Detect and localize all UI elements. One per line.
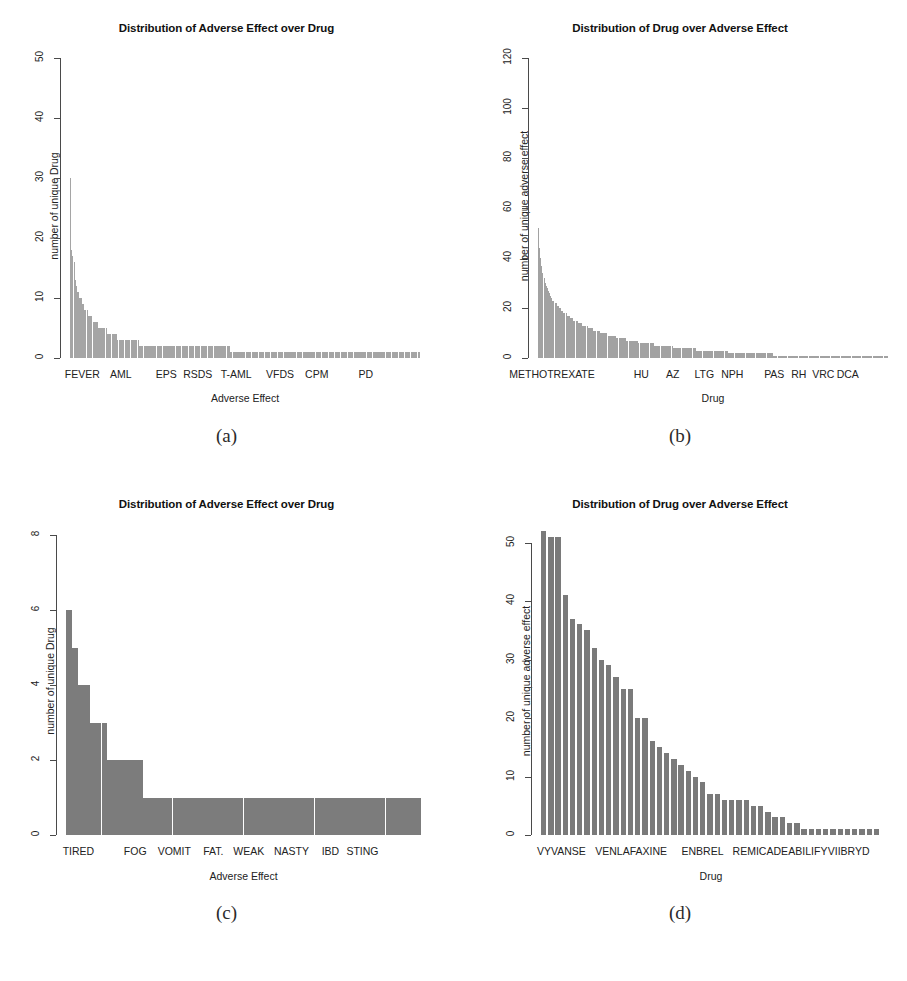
bar: [722, 800, 727, 835]
y-axis-line: [56, 535, 57, 835]
y-axis-tick: [522, 158, 528, 159]
y-axis-tick-label: 8: [30, 517, 41, 551]
y-axis-tick: [50, 610, 56, 611]
bar: [541, 531, 546, 835]
bar: [657, 747, 662, 835]
y-axis-tick: [525, 543, 531, 544]
bar: [787, 823, 792, 835]
y-axis-tick-label: 50: [505, 524, 516, 558]
y-axis-tick: [525, 601, 531, 602]
x-axis-tick-label: METHOTREXATE: [507, 368, 597, 380]
bar: [613, 677, 618, 835]
bar: [548, 537, 553, 835]
bar-series: [538, 58, 888, 358]
bar: [415, 798, 421, 836]
x-axis-tick-label: VIIBRYD: [804, 845, 894, 857]
chart-title-a: Distribution of Adverse Effect over Drug: [0, 22, 453, 34]
bar: [606, 665, 611, 835]
y-axis-tick-label: 6: [30, 592, 41, 626]
x-axis-label-b: Drug: [538, 392, 888, 404]
figure-grid: Distribution of Adverse Effect over Drug…: [0, 0, 907, 981]
bar: [707, 794, 712, 835]
bar-series: [541, 525, 881, 835]
y-axis-tick: [50, 760, 56, 761]
y-axis-tick: [525, 835, 531, 836]
bar: [744, 800, 749, 835]
bar: [686, 771, 691, 835]
bar: [794, 823, 799, 835]
bar: [693, 777, 698, 835]
bar: [715, 794, 720, 835]
y-axis-tick-label: 30: [505, 641, 516, 675]
plot-area-a: 01020304050FEVERAMLEPSRSDST-AMLVFDSCPMPD: [70, 58, 420, 358]
bar: [700, 782, 705, 835]
y-axis-tick: [522, 358, 528, 359]
chart-title-c: Distribution of Adverse Effect over Drug: [0, 498, 453, 510]
bar: [772, 817, 777, 835]
bar: [838, 829, 843, 835]
bar: [671, 759, 676, 835]
bar: [751, 806, 756, 835]
y-axis-line: [60, 58, 61, 358]
y-axis-tick: [522, 208, 528, 209]
y-axis-tick: [54, 358, 60, 359]
y-axis-tick-label: 10: [505, 758, 516, 792]
subfigure-caption-d: (d): [453, 902, 907, 924]
y-axis-tick: [50, 685, 56, 686]
bar: [678, 765, 683, 835]
bar: [729, 800, 734, 835]
y-axis-label-a: number of unique Drug: [48, 126, 60, 286]
bar: [584, 630, 589, 835]
y-axis-line: [528, 58, 529, 358]
y-axis-tick: [522, 308, 528, 309]
y-axis-tick-label: 40: [502, 240, 513, 274]
y-axis-tick-label: 20: [505, 700, 516, 734]
y-axis-tick-label: 40: [505, 583, 516, 617]
bar: [845, 829, 850, 835]
plot-area-b: 020406080100120METHOTREXATEHUAZLTGNPHPAS…: [538, 58, 888, 358]
bar: [736, 800, 741, 835]
y-axis-tick: [522, 258, 528, 259]
y-axis-tick-label: 50: [34, 40, 45, 74]
y-axis-tick-label: 120: [502, 40, 513, 74]
y-axis-tick: [522, 108, 528, 109]
chart-panel-b: Distribution of Drug over Adverse Effect…: [453, 0, 907, 470]
chart-title-b: Distribution of Drug over Adverse Effect: [453, 22, 907, 34]
bar-series: [66, 535, 421, 835]
y-axis-tick-label: 40: [34, 100, 45, 134]
bar: [642, 718, 647, 835]
bar: [650, 741, 655, 835]
bar: [809, 829, 814, 835]
bar: [867, 829, 872, 835]
bar: [563, 595, 568, 835]
bar: [874, 829, 879, 835]
y-axis-tick: [525, 718, 531, 719]
bar: [592, 648, 597, 835]
chart-panel-a: Distribution of Adverse Effect over Drug…: [0, 0, 453, 470]
y-axis-tick-label: 80: [502, 140, 513, 174]
y-axis-tick-label: 4: [30, 667, 41, 701]
bar: [852, 829, 857, 835]
subfigure-a: Distribution of Adverse Effect over Drug…: [0, 0, 453, 470]
y-axis-tick: [50, 535, 56, 536]
y-axis-tick: [525, 660, 531, 661]
bar: [758, 806, 763, 835]
bar: [830, 829, 835, 835]
y-axis-tick: [54, 178, 60, 179]
bar: [621, 689, 626, 835]
y-axis-tick: [54, 238, 60, 239]
bar: [555, 537, 560, 835]
subfigure-b: Distribution of Drug over Adverse Effect…: [453, 0, 907, 470]
bar-series: [70, 58, 420, 358]
y-axis-tick-label: 100: [502, 90, 513, 124]
plot-area-d: 01020304050VYVANSEVENLAFAXINEENBRELREMIC…: [541, 525, 881, 835]
bar: [599, 660, 604, 835]
subfigure-caption-a: (a): [0, 425, 453, 447]
y-axis-tick: [54, 118, 60, 119]
bar: [577, 624, 582, 835]
x-axis-label-a: Adverse Effect: [70, 392, 420, 404]
bar: [887, 356, 888, 359]
bar: [635, 718, 640, 835]
y-axis-tick-label: 0: [505, 817, 516, 851]
bar: [780, 817, 785, 835]
